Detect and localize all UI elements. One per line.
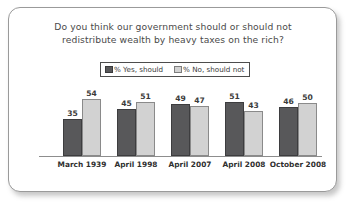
chart-title: Do you think our government should or sh… [23, 20, 323, 46]
bar-no [82, 99, 101, 156]
bar-item: 51 [225, 92, 244, 156]
bar-no [190, 106, 209, 156]
bar-value-label: 51 [229, 92, 240, 101]
legend-swatch-yes-icon [105, 66, 113, 73]
bar-value-label: 46 [283, 97, 294, 106]
bar-group: 3554 [63, 89, 101, 156]
x-axis-line [39, 156, 322, 157]
bar-item: 54 [82, 89, 101, 156]
bar-group: 4947 [171, 94, 209, 156]
x-axis-label: April 2007 [159, 160, 221, 169]
bar-yes [63, 119, 82, 156]
bar-no [136, 102, 155, 156]
x-axis-label: April 1998 [105, 160, 167, 169]
bar-item: 50 [298, 93, 317, 156]
bar-yes [117, 109, 136, 157]
legend-swatch-no-icon [174, 66, 182, 73]
x-axis-label: March 1939 [51, 160, 113, 169]
bar-item: 43 [244, 101, 263, 156]
chart-legend: % Yes, should % No, should not [100, 62, 250, 77]
legend-label-no: % No, should not [183, 65, 244, 74]
bar-yes [279, 107, 298, 156]
bar-value-label: 47 [194, 96, 205, 105]
bar-item: 47 [190, 96, 209, 156]
chart-title-line-1: Do you think our government should or sh… [23, 20, 323, 33]
bar-value-label: 50 [302, 93, 313, 102]
bar-item: 35 [63, 109, 82, 156]
x-axis-label: October 2008 [267, 160, 329, 169]
bar-item: 49 [171, 94, 190, 156]
bar-yes [225, 102, 244, 156]
bar-no [244, 111, 263, 156]
bar-no [298, 103, 317, 156]
chart-card: Do you think our government should or sh… [8, 7, 337, 192]
chart-title-line-2: redistribute wealth by heavy taxes on th… [23, 33, 323, 46]
bar-value-label: 35 [67, 109, 78, 118]
bar-value-label: 51 [140, 92, 151, 101]
bar-group: 5143 [225, 92, 263, 156]
bar-value-label: 54 [86, 89, 97, 98]
legend-label-yes: % Yes, should [114, 65, 163, 74]
bar-group: 4650 [279, 93, 317, 156]
bar-value-label: 43 [248, 101, 259, 110]
plot-area: 35544551494751434650 [39, 90, 321, 156]
bar-item: 51 [136, 92, 155, 156]
legend-item-yes: % Yes, should [105, 65, 163, 74]
bar-yes [171, 104, 190, 156]
x-axis-label: April 2008 [213, 160, 275, 169]
bar-value-label: 49 [175, 94, 186, 103]
bar-item: 46 [279, 97, 298, 156]
bar-item: 45 [117, 99, 136, 157]
bar-group: 4551 [117, 92, 155, 156]
legend-item-no: % No, should not [174, 65, 244, 74]
bar-value-label: 45 [121, 99, 132, 108]
